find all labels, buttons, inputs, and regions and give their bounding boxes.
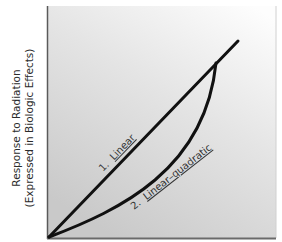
chart-plot: 1. Linear 2. Linear–quadratic xyxy=(0,0,282,242)
